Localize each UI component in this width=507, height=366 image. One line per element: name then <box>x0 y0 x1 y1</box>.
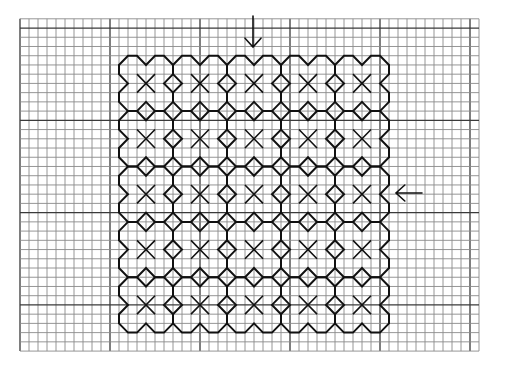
stitch-chart <box>0 0 507 366</box>
down-arrow-icon <box>245 16 261 47</box>
left-arrow-icon <box>396 185 422 201</box>
